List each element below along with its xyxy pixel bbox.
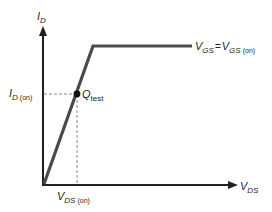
curve-label: VGS=VGS(on) (195, 40, 255, 55)
drain-curve (44, 46, 192, 184)
x-axis-arrow-icon (228, 181, 238, 189)
x-axis-label: VDS (240, 180, 259, 195)
mosfet-characteristic-diagram: ID VDS VGS=VGS(on) Qtest ID(on) VDS(on) (0, 0, 272, 212)
y-axis (39, 26, 47, 186)
id-on-label: ID(on) (9, 87, 32, 102)
q-test-point (74, 91, 81, 98)
y-axis-label: ID (37, 10, 46, 25)
q-test-label: Qtest (82, 88, 104, 103)
x-axis (42, 181, 238, 189)
y-axis-arrow-icon (39, 26, 47, 36)
vds-on-label: VDS(on) (57, 190, 90, 205)
